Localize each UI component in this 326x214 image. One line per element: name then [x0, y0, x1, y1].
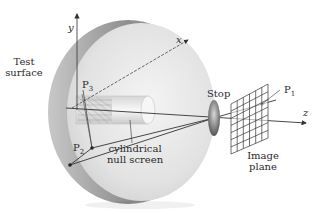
image-plane-label-line1: Image	[243, 150, 283, 161]
stop-aperture	[208, 100, 220, 136]
p3-label: P3	[82, 79, 93, 92]
cylinder-label-line1: cylindrical	[100, 143, 170, 154]
point-p2	[68, 163, 72, 167]
test-surface-label-line1: Test	[4, 56, 44, 67]
p2-label-sub: 2	[80, 148, 84, 156]
image-plane-grid	[231, 84, 268, 154]
p1-label: P1	[284, 84, 295, 97]
p2-label-main: P	[73, 142, 80, 153]
z-axis-label: z	[303, 107, 308, 118]
cylindrical-null-screen-label: cylindrical null screen	[100, 143, 170, 165]
test-surface-diagram: Test surface y x z P3 P2 P1 cylindrical …	[0, 0, 326, 214]
y-axis-label: y	[68, 22, 74, 33]
test-surface-label-line2: surface	[4, 67, 44, 78]
image-plane-label-line2: plane	[243, 161, 283, 172]
stop-label: Stop	[207, 88, 230, 99]
image-plane-label: Image plane	[243, 150, 283, 172]
x-axis-label: x	[176, 34, 182, 45]
p1-label-main: P	[284, 84, 291, 95]
cylinder-label-line2: null screen	[100, 154, 170, 165]
test-surface-label: Test surface	[4, 56, 44, 78]
p3-label-main: P	[82, 79, 89, 90]
p1-label-sub: 1	[291, 90, 295, 98]
diagram-graphics	[0, 0, 326, 214]
p3-label-sub: 3	[89, 85, 93, 93]
p2-label: P2	[73, 142, 84, 155]
